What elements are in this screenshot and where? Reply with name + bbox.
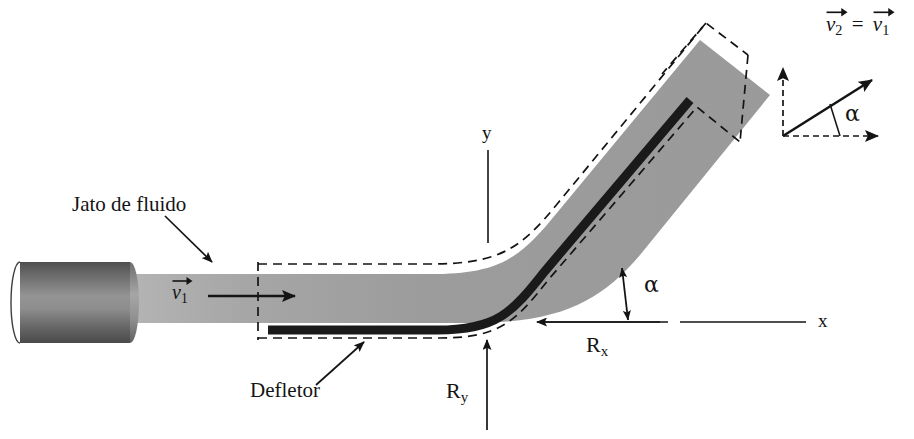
vector-overbar-icon — [825, 6, 849, 18]
velocity-equation-label: v2 = v1 — [826, 12, 889, 39]
nozzle — [11, 262, 139, 343]
outlet-velocity-subscript: 2 — [835, 22, 842, 38]
force-rx-label: Rx — [586, 332, 608, 360]
vector-diagram-angle-label: α — [845, 101, 860, 126]
vector-overbar-icon — [872, 6, 896, 18]
deflector-leader-arrow — [316, 342, 364, 385]
equals-sign: = — [852, 12, 864, 36]
force-rx-subscript: x — [601, 343, 608, 359]
y-axis-label: y — [482, 122, 492, 144]
x-axis-label: x — [818, 310, 828, 332]
fluid-jet — [130, 40, 770, 323]
force-ry-symbol: R — [446, 378, 461, 403]
velocity-vector-diagram — [783, 68, 878, 136]
force-ry-subscript: y — [461, 389, 468, 405]
inlet-velocity-subscript: 1 — [181, 291, 188, 306]
vector-overbar-icon — [171, 275, 194, 286]
deflector-label: Defletor — [250, 378, 320, 403]
diagram-svg — [0, 0, 914, 439]
force-ry-label: Ry — [446, 378, 468, 406]
jet-label: Jato de fluido — [72, 192, 186, 217]
diagram-canvas: Jato de fluido Defletor x y v1 Rx Ry α α… — [0, 0, 914, 439]
deflector-angle-label: α — [644, 272, 659, 297]
force-rx-symbol: R — [586, 332, 601, 357]
deflector-angle-indicator — [622, 268, 628, 320]
inlet-velocity-label: v1 — [172, 281, 188, 307]
jet-leader-arrow — [165, 216, 212, 262]
inlet-velocity-subscript-eq: 1 — [882, 22, 889, 38]
